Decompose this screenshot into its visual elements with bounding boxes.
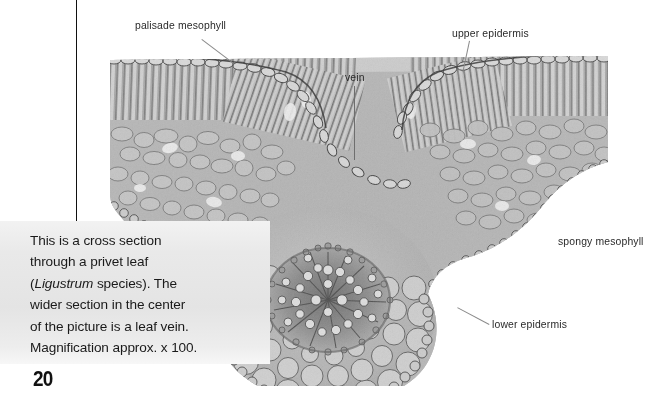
vertical-rule-divider [76,0,77,223]
caption-line-4: wider section in the center [30,297,185,312]
caption-line-3: (Ligustrum species). The [30,276,177,291]
caption-line-5: of the picture is a leaf vein. [30,319,189,334]
label-palisade-mesophyll: palisade mesophyll [135,20,226,31]
caption-italic-genus: Ligustrum [34,276,93,291]
caption-text: This is a cross section through a privet… [30,230,245,358]
caption-line-2: through a privet leaf [30,254,148,269]
page-canvas: palisade mesophyll upper epidermis vein … [0,0,667,399]
label-lower-epidermis: lower epidermis [492,319,567,330]
leader-line-vein [354,86,355,160]
caption-line-1: This is a cross section [30,233,161,248]
label-spongy-mesophyll: spongy mesophyll [558,236,644,247]
label-upper-epidermis: upper epidermis [452,28,529,39]
page-number: 20 [33,366,52,392]
caption-line-6: Magnification approx. x 100. [30,340,197,355]
label-vein: vein [345,72,365,83]
